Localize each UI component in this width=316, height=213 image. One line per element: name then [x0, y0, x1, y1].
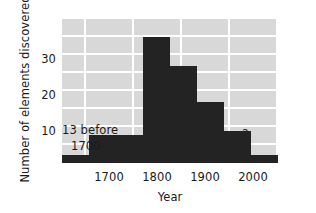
annotation-before-1700-line1: 13 before: [62, 123, 118, 137]
histogram-bar: [197, 102, 224, 163]
y-axis-tick-20: 20: [16, 88, 56, 102]
x-axis-label: Year: [62, 190, 278, 204]
x-axis-tick-2000: 2000: [223, 170, 283, 184]
gridline-horizontal: [62, 35, 278, 37]
chart-figure: Number of elements discovered 30 20 10 1…: [0, 0, 316, 213]
annotation-before-1700-line2: 1700: [71, 139, 101, 153]
y-axis-tick-30: 30: [16, 52, 56, 66]
plot-area: 13 before 1700 ?: [62, 17, 278, 163]
gridline-horizontal: [62, 17, 278, 19]
gridline-vertical: [276, 17, 278, 163]
y-axis-tick-10: 10: [16, 124, 56, 138]
histogram-bar: [116, 135, 143, 163]
histogram-bar: [62, 155, 89, 163]
gridline-horizontal: [62, 53, 278, 55]
histogram-bar: [251, 155, 278, 163]
histogram-bar: [143, 37, 170, 163]
annotation-question-mark: ?: [242, 127, 248, 141]
histogram-bar: [170, 66, 197, 163]
